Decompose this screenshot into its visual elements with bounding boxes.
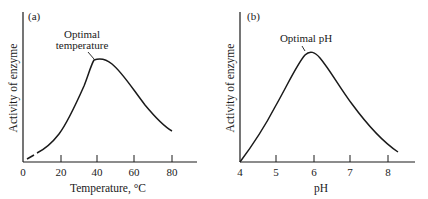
tick-label: 40	[92, 166, 104, 178]
panel-a-temperature-chart: 0 20 40 60 80 Temperature, °C Activity o…	[7, 10, 197, 195]
panel-a-curve	[37, 59, 172, 153]
panel-a-x-axis-label: Temperature, °C	[70, 182, 146, 195]
tick-label: 6	[311, 166, 317, 178]
tick-label: 20	[56, 166, 68, 178]
panel-b-annotation: Optimal pH	[280, 32, 332, 44]
tick-label: 60	[129, 166, 141, 178]
panel-a-x-tick-labels: 0 20 40 60 80	[20, 166, 178, 178]
panel-b-x-tick-labels: 4 5 6 7 8	[237, 166, 391, 178]
tick-label: 5	[273, 166, 279, 178]
panel-a-x-ticks	[61, 155, 172, 162]
panel-b-curve	[240, 52, 398, 162]
tick-label: 7	[347, 166, 353, 178]
tick-label: 4	[237, 166, 243, 178]
panel-b-ph-chart: 4 5 6 7 8 pH Activity of enzyme (b) Opti…	[224, 10, 415, 195]
enzyme-activity-figure: 0 20 40 60 80 Temperature, °C Activity o…	[0, 0, 428, 199]
tick-label: 8	[385, 166, 391, 178]
tick-label: 0	[20, 166, 26, 178]
panel-b-label: (b)	[247, 10, 260, 23]
panel-a-y-axis-label: Activity of enzyme	[7, 44, 20, 133]
panel-a-curve-dashed-start	[27, 155, 34, 159]
panel-b-x-ticks	[276, 155, 388, 162]
panel-b-y-axis-label: Activity of enzyme	[224, 44, 237, 133]
panel-b-annotation-pointer	[302, 46, 305, 51]
panel-b-x-axis-label: pH	[314, 182, 328, 195]
panel-a-label: (a)	[28, 10, 41, 23]
panel-a-annotation-line2: temperature	[56, 39, 109, 51]
tick-label: 80	[167, 166, 179, 178]
panel-a-annotation-pointer	[88, 52, 94, 59]
